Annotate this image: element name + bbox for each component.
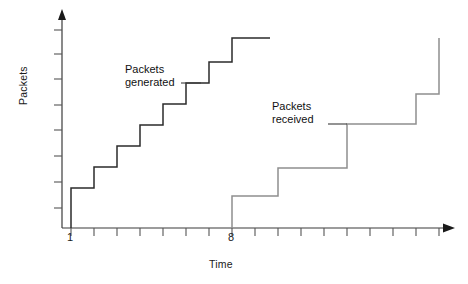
annotation-received-line2: received bbox=[272, 113, 314, 126]
x-tick-label-8: 8 bbox=[228, 231, 234, 243]
x-axis-label: Time bbox=[209, 258, 233, 270]
x-tick-label-1: 1 bbox=[67, 231, 73, 243]
x-axis-ticks bbox=[71, 228, 439, 236]
y-axis-label: Packets bbox=[17, 66, 29, 105]
y-axis-ticks bbox=[54, 30, 62, 208]
y-axis-arrowhead bbox=[58, 9, 66, 20]
chart-figure: Packets Time 1 8 Packets generated Packe… bbox=[0, 0, 468, 284]
annotation-packets-generated: Packets generated bbox=[125, 63, 175, 89]
x-axis-group bbox=[62, 224, 455, 237]
annotation-generated-line1: Packets bbox=[125, 63, 175, 76]
x-axis-arrowhead bbox=[443, 224, 455, 233]
annotation-packets-received: Packets received bbox=[272, 100, 314, 126]
y-axis-group bbox=[54, 9, 66, 228]
annotation-received-line1: Packets bbox=[272, 100, 314, 113]
series-packets-received bbox=[232, 38, 439, 228]
annotation-generated-line2: generated bbox=[125, 76, 175, 89]
